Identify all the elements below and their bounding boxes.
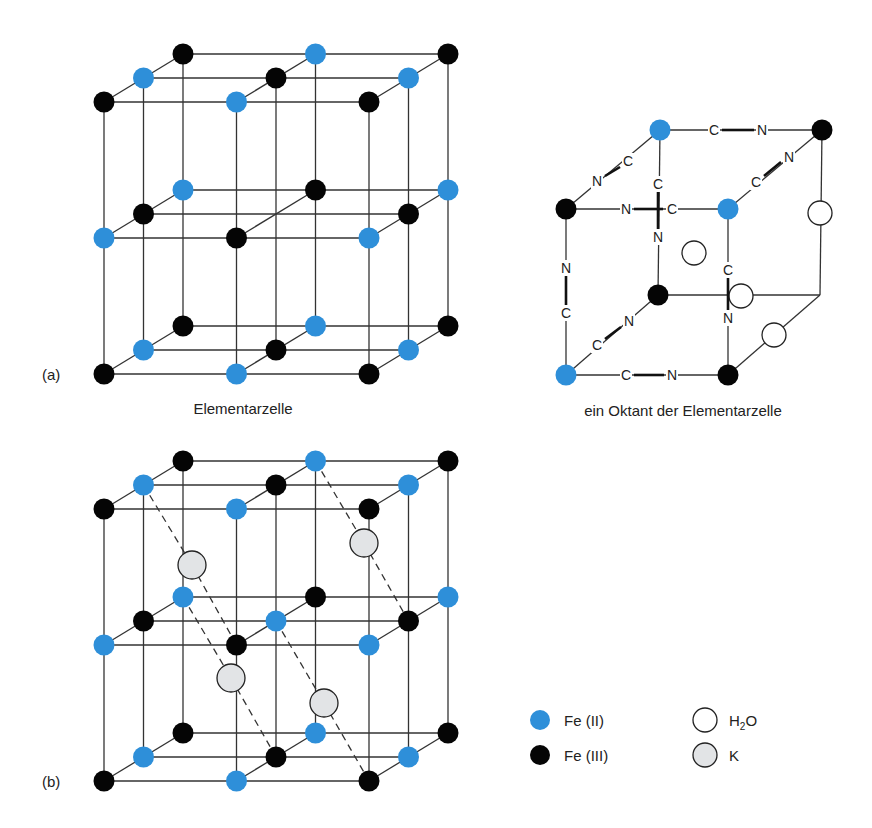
carbon-label: C	[623, 153, 633, 169]
fe2-atom	[438, 587, 459, 608]
nitrogen-label: N	[757, 122, 767, 138]
k-ion	[350, 529, 378, 557]
unit-cell-diagram-a	[94, 44, 459, 385]
fe2-atom	[226, 92, 247, 113]
fe3-atom	[398, 611, 419, 632]
fe2-atom	[398, 68, 419, 89]
nitrogen-label: N	[653, 229, 663, 245]
carbon-label: C	[723, 262, 733, 278]
fe3-atom	[94, 771, 115, 792]
fe3-atom	[226, 635, 247, 656]
fe2-atom	[94, 228, 115, 249]
fe2-atom	[398, 340, 419, 361]
fe2-atom	[94, 635, 115, 656]
fe3-atom	[266, 475, 287, 496]
carbon-label: C	[709, 122, 719, 138]
fe3-atom	[133, 611, 154, 632]
bond-line	[566, 130, 660, 209]
fe2-atom	[650, 120, 671, 141]
fe2-atom	[398, 747, 419, 768]
fe2-atom	[226, 499, 247, 520]
fe2-atom	[305, 723, 326, 744]
carbon-label: C	[751, 174, 761, 190]
nitrogen-label: N	[592, 173, 602, 189]
fe2-legend-icon	[530, 710, 550, 730]
cn-bond	[605, 327, 621, 339]
h2o-legend-icon	[693, 708, 717, 732]
h2o-molecule	[808, 201, 832, 225]
carbon-label: C	[561, 305, 571, 321]
fe2-atom	[173, 180, 194, 201]
fe2-atom	[133, 747, 154, 768]
nitrogen-label: N	[561, 260, 571, 276]
fe2-atom	[718, 199, 739, 220]
legend-h2o-label: H2O	[729, 712, 757, 732]
fe3-atom	[359, 92, 380, 113]
fe3-atom	[359, 364, 380, 385]
fe3-atom	[438, 44, 459, 65]
k-legend-icon	[693, 743, 717, 767]
carbon-label: C	[592, 337, 602, 353]
unit-cell-diagram-b	[94, 451, 459, 792]
fe3-atom	[438, 723, 459, 744]
fe3-atom	[648, 285, 669, 306]
fe3-atom	[266, 340, 287, 361]
fe3-atom	[438, 316, 459, 337]
fe2-atom	[305, 451, 326, 472]
legend-k-label: K	[729, 747, 739, 764]
nitrogen-label: N	[667, 367, 677, 383]
fe2-atom	[133, 475, 154, 496]
diagram-canvas: CNNCCNNCCNNCCNCNCN (a) Elementarzelle ei…	[0, 0, 872, 828]
cn-bond	[764, 162, 781, 176]
cn-bond	[605, 167, 620, 176]
panel-a-label: (a)	[42, 366, 60, 383]
k-ion	[178, 551, 206, 579]
h2o-molecule	[729, 284, 753, 308]
fe2-atom	[226, 364, 247, 385]
fe3-atom	[94, 92, 115, 113]
fe3-atom	[359, 499, 380, 520]
fe3-atom	[266, 68, 287, 89]
nitrogen-label: N	[624, 313, 634, 329]
unit-cell-caption: Elementarzelle	[193, 400, 292, 417]
fe3-atom	[305, 180, 326, 201]
fe3-atom	[173, 316, 194, 337]
bond-line	[728, 130, 822, 209]
h2o-molecule	[682, 241, 706, 265]
nitrogen-label: N	[621, 201, 631, 217]
fe3-atom	[266, 747, 287, 768]
panel-b-label: (b)	[42, 773, 60, 790]
carbon-label: C	[621, 367, 631, 383]
fe3-atom	[94, 364, 115, 385]
fe2-atom	[173, 587, 194, 608]
legend-fe2-label: Fe (II)	[564, 712, 604, 729]
fe2-atom	[359, 635, 380, 656]
fe2-atom	[398, 475, 419, 496]
carbon-label: C	[667, 201, 677, 217]
fe3-atom	[226, 228, 247, 249]
fe3-atom	[173, 44, 194, 65]
legend-fe3-label: Fe (III)	[564, 747, 608, 764]
carbon-label: C	[653, 176, 663, 192]
k-ion	[310, 689, 338, 717]
fe3-atom	[359, 771, 380, 792]
fe2-atom	[305, 316, 326, 337]
octant-caption: ein Oktant der Elementarzelle	[584, 402, 782, 419]
legend: Fe (II) Fe (III) H2O K	[530, 708, 757, 767]
fe2-atom	[556, 365, 577, 386]
fe3-atom	[94, 499, 115, 520]
fe3-atom	[398, 204, 419, 225]
fe3-legend-icon	[530, 745, 550, 765]
fe3-atom	[718, 365, 739, 386]
fe2-atom	[133, 340, 154, 361]
nitrogen-label: N	[723, 310, 733, 326]
fe2-atom	[226, 771, 247, 792]
fe3-atom	[438, 451, 459, 472]
fe2-atom	[438, 180, 459, 201]
fe2-atom	[133, 68, 154, 89]
nitrogen-label: N	[784, 149, 794, 165]
fe3-atom	[133, 204, 154, 225]
fe3-atom	[173, 723, 194, 744]
fe2-atom	[266, 611, 287, 632]
fe3-atom	[173, 451, 194, 472]
